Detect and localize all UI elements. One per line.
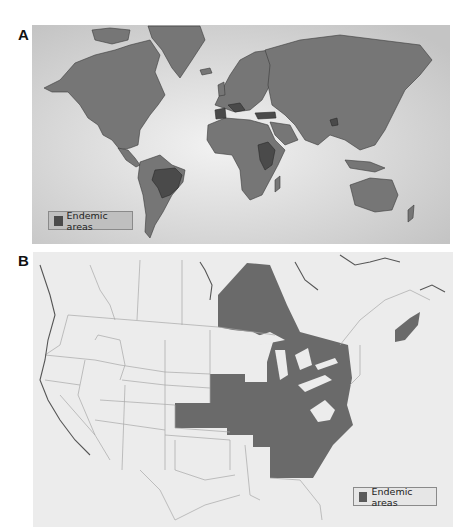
panel-label-b: B [18, 252, 29, 269]
panel-label-a: A [18, 26, 29, 43]
legend-label: Endemic areas [67, 210, 127, 232]
legend-north-america: Endemic areas [353, 487, 437, 506]
endemic-swatch-icon [359, 492, 367, 502]
endemic-swatch-icon [54, 216, 63, 226]
legend-world: Endemic areas [48, 211, 133, 230]
legend-label: Endemic areas [371, 486, 431, 508]
